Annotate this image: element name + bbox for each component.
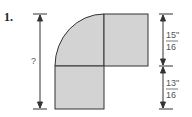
composite-shape: [55, 14, 148, 109]
svg-text:13": 13": [166, 78, 179, 88]
dimension-top-fraction: 15" 16: [166, 30, 179, 52]
problem-number: 1.: [4, 10, 13, 24]
diagram: 1. ? 15" 16 13" 16: [0, 0, 192, 117]
svg-text:16: 16: [166, 42, 176, 52]
svg-text:16: 16: [166, 90, 176, 100]
bottom-left-rectangle: [55, 66, 104, 109]
dimension-bottom-fraction: 13" 16: [166, 78, 179, 100]
unknown-height-label: ?: [31, 56, 36, 66]
quarter-circle: [55, 14, 104, 66]
svg-text:15": 15": [166, 30, 179, 40]
top-right-square: [104, 14, 148, 66]
